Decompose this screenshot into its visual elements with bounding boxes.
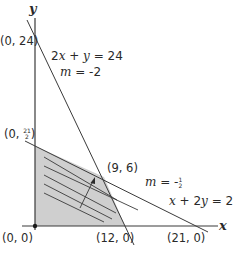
eq1-var-y: y	[83, 49, 90, 63]
linear-programming-diagram: y x (0, 24) (0, 212) (9, 6) (0, 0) (12, …	[0, 0, 234, 257]
equation-line2: x + 2y = 21	[169, 195, 234, 207]
y-axis-label: y	[29, 2, 37, 15]
eq2-var-x: x	[169, 194, 176, 208]
eq2-rhs: = 21	[208, 194, 234, 208]
eq1-rhs: = 24	[90, 49, 123, 63]
fraction-denominator: 2	[178, 183, 182, 189]
point-label-9-6: (9, 6)	[107, 163, 138, 175]
point-label-21-0: (21, 0)	[167, 233, 205, 245]
eq1-plus: +	[65, 49, 83, 63]
point-label-0-0: (0, 0)	[2, 233, 33, 245]
eq1-coef: 2	[51, 49, 59, 63]
origin-dot	[33, 224, 37, 228]
fraction-1-2: 12	[178, 177, 182, 189]
eq2-plus: + 2	[176, 194, 201, 208]
point-label-0-21-2: (0, 212)	[4, 128, 35, 140]
fraction-21-2: 212	[23, 128, 31, 140]
point-prefix: (0,	[4, 127, 23, 141]
slope-line2: m = -12	[145, 176, 182, 189]
eq2-var-y: y	[201, 194, 208, 208]
fraction-denominator: 2	[23, 134, 31, 140]
slope1-var: m	[60, 65, 71, 79]
x-axis-label: x	[219, 219, 227, 232]
point-suffix: )	[31, 127, 36, 141]
slope2-var: m	[145, 175, 156, 189]
point-label-0-24: (0, 24)	[0, 36, 38, 48]
slope-line1: m = -2	[60, 66, 101, 78]
point-label-12-0: (12, 0)	[96, 233, 134, 245]
slope1-value: = -2	[71, 65, 101, 79]
slope2-prefix: = -	[156, 175, 178, 189]
equation-line1: 2x + y = 24	[51, 50, 123, 62]
